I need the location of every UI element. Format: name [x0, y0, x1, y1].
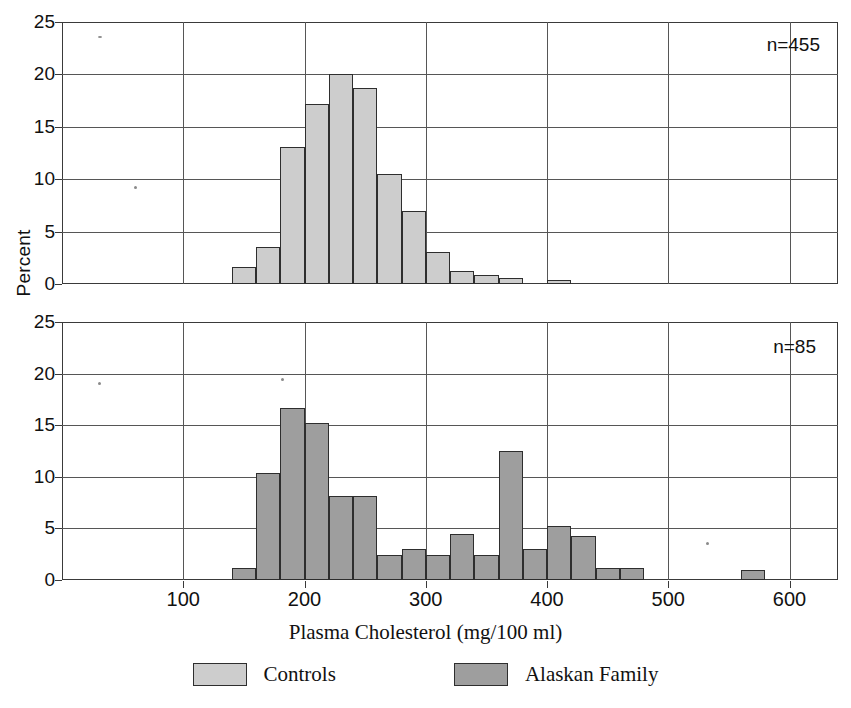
- speckle-dot: [134, 186, 137, 189]
- y-axis-tick-label: 25: [34, 11, 55, 33]
- y-axis-tick-mark: [55, 179, 62, 180]
- y-axis-tick-mark: [55, 127, 62, 128]
- histogram-bar: [353, 88, 377, 284]
- histogram-bar: [232, 568, 256, 580]
- y-axis-tick-mark: [55, 425, 62, 426]
- x-axis-tick-label: 400: [530, 588, 563, 611]
- x-axis-tick-label: 300: [409, 588, 442, 611]
- y-axis-tick-mark: [55, 374, 62, 375]
- x-axis-tick-label: 200: [288, 588, 321, 611]
- histogram-bar: [280, 408, 304, 580]
- legend: Controls Alaskan Family: [0, 662, 851, 687]
- x-axis-tick-mark: [668, 581, 669, 588]
- histogram-bar: [256, 473, 280, 580]
- y-axis-tick-label: 5: [44, 220, 55, 242]
- y-axis-tick-label: 0: [44, 569, 55, 591]
- gridline-vertical: [426, 22, 427, 284]
- x-axis-tick-mark: [547, 581, 548, 588]
- histogram-bar: [377, 555, 401, 580]
- y-axis-tick-label: 0: [44, 273, 55, 295]
- histogram-bar: [377, 174, 401, 284]
- x-axis-tick-label: 600: [773, 588, 806, 611]
- histogram-bar: [426, 252, 450, 284]
- histogram-bar: [402, 211, 426, 284]
- x-axis-tick-mark: [305, 581, 306, 588]
- histogram-bar: [474, 555, 498, 580]
- x-axis: 100200300400500600: [62, 588, 838, 616]
- legend-item-alaskan-family: Alaskan Family: [454, 662, 659, 687]
- histogram-bar: [305, 104, 329, 284]
- y-axis-tick-mark: [55, 74, 62, 75]
- plot-area-controls: [62, 22, 838, 284]
- histogram-bar: [523, 549, 547, 580]
- histogram-bar: [620, 568, 644, 580]
- legend-label-alaskan-family: Alaskan Family: [525, 662, 659, 687]
- gridline-vertical: [790, 322, 791, 580]
- gridline-horizontal: [62, 74, 838, 75]
- y-axis-tick-label: 10: [34, 465, 55, 487]
- gridline-vertical: [547, 22, 548, 284]
- x-axis-tick-mark: [426, 581, 427, 588]
- x-axis-tick-label: 100: [167, 588, 200, 611]
- histogram-bar: [256, 247, 280, 284]
- histogram-bar: [474, 275, 498, 284]
- gridline-horizontal: [62, 127, 838, 128]
- histogram-bar: [741, 570, 765, 580]
- y-axis-tick-label: 5: [44, 517, 55, 539]
- histogram-bar: [305, 423, 329, 580]
- histogram-bar: [450, 534, 474, 580]
- sample-size-label-controls: n=455: [767, 34, 820, 56]
- gridline-horizontal: [62, 425, 838, 426]
- histogram-bar: [547, 280, 571, 284]
- y-axis-tick-mark: [55, 528, 62, 529]
- gridline-horizontal: [62, 179, 838, 180]
- y-axis-tick-mark: [55, 22, 62, 23]
- x-axis-title: Plasma Cholesterol (mg/100 ml): [0, 620, 851, 645]
- legend-swatch-controls: [193, 663, 247, 686]
- panel-alaskan-family: 0510152025 n=85: [62, 322, 838, 580]
- y-axis-tick-label: 25: [34, 311, 55, 333]
- y-axis-tick-label: 20: [34, 63, 55, 85]
- histogram-bar: [547, 526, 571, 580]
- histogram-bar: [402, 549, 426, 580]
- histogram-bar: [426, 555, 450, 580]
- y-axis-tick-label: 15: [34, 115, 55, 137]
- gridline-horizontal: [62, 477, 838, 478]
- gridline-horizontal: [62, 528, 838, 529]
- panel-controls: 0510152025 n=455: [62, 22, 838, 284]
- histogram-bar: [232, 267, 256, 284]
- y-axis-tick-mark: [55, 232, 62, 233]
- histogram-bar: [499, 451, 523, 580]
- histogram-bar: [596, 568, 620, 580]
- gridline-vertical: [668, 22, 669, 284]
- gridline-horizontal: [62, 374, 838, 375]
- gridline-vertical: [426, 322, 427, 580]
- speckle-dot: [98, 382, 101, 385]
- histogram-bar: [329, 74, 353, 284]
- gridline-horizontal: [62, 232, 838, 233]
- legend-label-controls: Controls: [264, 662, 336, 687]
- histogram-bar: [280, 147, 304, 284]
- sample-size-label-alaskan-family: n=85: [773, 336, 816, 358]
- x-axis-tick-mark: [183, 581, 184, 588]
- y-axis-tick-label: 10: [34, 168, 55, 190]
- x-axis-tick-mark: [790, 581, 791, 588]
- y-axis-title: Percent: [13, 203, 35, 323]
- chart-figure: Percent 0510152025 n=455 0510152025 n=85…: [0, 0, 851, 708]
- legend-swatch-alaskan-family: [454, 663, 508, 686]
- y-axis-tick-mark: [55, 284, 62, 285]
- histogram-bar: [499, 278, 523, 284]
- gridline-vertical: [183, 22, 184, 284]
- y-axis-tick-mark: [55, 322, 62, 323]
- gridline-vertical: [183, 322, 184, 580]
- legend-item-controls: Controls: [193, 662, 336, 687]
- gridline-vertical: [668, 322, 669, 580]
- speckle-dot: [281, 378, 284, 381]
- histogram-bar: [450, 271, 474, 284]
- y-axis-tick-label: 20: [34, 362, 55, 384]
- histogram-bar: [571, 536, 595, 580]
- gridline-vertical: [790, 22, 791, 284]
- histogram-bar: [329, 496, 353, 580]
- y-axis-tick-mark: [55, 580, 62, 581]
- speckle-dot: [706, 542, 709, 545]
